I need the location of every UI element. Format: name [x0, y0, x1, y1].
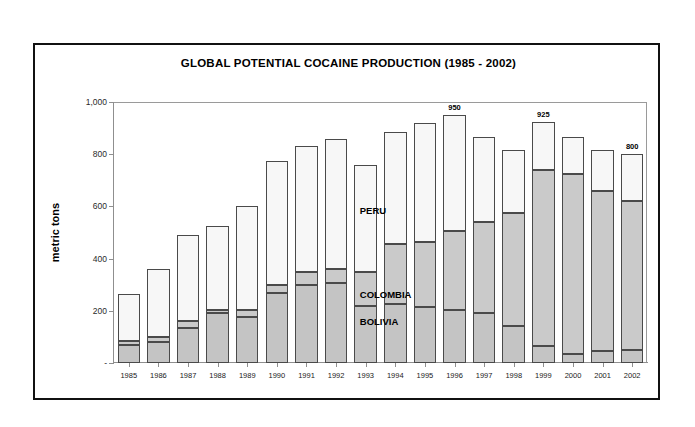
bar-segment-bolivia[interactable]	[177, 328, 200, 363]
bar-segment-peru[interactable]	[473, 137, 496, 222]
bar-segment-colombia[interactable]	[473, 222, 496, 313]
bar-group[interactable]	[206, 102, 229, 363]
bar-segment-peru[interactable]	[532, 122, 555, 170]
x-tick-label: 1994	[387, 371, 404, 380]
bar-segment-bolivia[interactable]	[354, 306, 377, 363]
plot-area: 1,000800600400200- 950925800 19851986198…	[114, 102, 647, 363]
figure-frame: GLOBAL POTENTIAL COCAINE PRODUCTION (198…	[33, 43, 660, 400]
bar-group[interactable]	[325, 102, 348, 363]
bar-group[interactable]	[562, 102, 585, 363]
y-tick-mark	[109, 363, 114, 364]
x-tick-mark	[455, 363, 456, 367]
chart-title: GLOBAL POTENTIAL COCAINE PRODUCTION (198…	[35, 57, 662, 69]
bar-value-label: 950	[448, 103, 461, 112]
x-tick-mark	[129, 363, 130, 367]
bar-group[interactable]	[295, 102, 318, 363]
y-tick-mark	[109, 206, 114, 207]
x-tick-label: 1986	[150, 371, 167, 380]
bar-segment-bolivia[interactable]	[266, 293, 289, 363]
bar-segment-bolivia[interactable]	[621, 350, 644, 363]
bar-segment-peru[interactable]	[621, 154, 644, 201]
bar-segment-bolivia[interactable]	[325, 283, 348, 363]
bar-segment-peru[interactable]	[354, 165, 377, 272]
bar-segment-bolivia[interactable]	[562, 354, 585, 363]
plot-right-border	[646, 102, 647, 363]
bar-segment-colombia[interactable]	[325, 269, 348, 283]
bar-segment-peru[interactable]	[591, 150, 614, 190]
bar-group[interactable]	[591, 102, 614, 363]
x-tick-mark	[514, 363, 515, 367]
x-tick-mark	[188, 363, 189, 367]
bar-segment-bolivia[interactable]	[591, 351, 614, 363]
bar-segment-colombia[interactable]	[295, 272, 318, 285]
bar-segment-colombia[interactable]	[236, 310, 259, 318]
bar-segment-colombia[interactable]	[118, 341, 141, 345]
y-tick-label: 800	[93, 149, 107, 159]
y-tick-mark	[109, 102, 114, 103]
bar-segment-colombia[interactable]	[266, 285, 289, 293]
bar-segment-bolivia[interactable]	[443, 310, 466, 364]
bar-segment-peru[interactable]	[414, 123, 437, 242]
bar-segment-peru[interactable]	[147, 269, 170, 337]
bar-segment-colombia[interactable]	[532, 170, 555, 346]
bar-segment-colombia[interactable]	[443, 231, 466, 309]
bar-group[interactable]	[266, 102, 289, 363]
bar-segment-peru[interactable]	[266, 161, 289, 285]
bar-segment-peru[interactable]	[295, 146, 318, 271]
x-tick-label: 1996	[446, 371, 463, 380]
bar-segment-peru[interactable]	[384, 132, 407, 244]
bar-segment-peru[interactable]	[118, 294, 141, 341]
series-label-bolivia: BOLIVIA	[360, 316, 399, 327]
bar-segment-colombia[interactable]	[621, 201, 644, 350]
bar-segment-bolivia[interactable]	[473, 313, 496, 363]
bar-segment-bolivia[interactable]	[236, 317, 259, 363]
x-tick-mark	[158, 363, 159, 367]
x-tick-label: 1988	[209, 371, 226, 380]
bar-segment-peru[interactable]	[562, 137, 585, 174]
bar-segment-colombia[interactable]	[591, 191, 614, 352]
bar-group[interactable]: 800	[621, 102, 644, 363]
x-tick-mark	[425, 363, 426, 367]
x-tick-label: 1995	[417, 371, 434, 380]
bar-segment-colombia[interactable]	[206, 310, 229, 314]
bar-segment-peru[interactable]	[177, 235, 200, 321]
y-tick-mark	[109, 259, 114, 260]
x-tick-mark	[484, 363, 485, 367]
bar-segment-colombia[interactable]	[177, 321, 200, 328]
bar-segment-colombia[interactable]	[147, 337, 170, 342]
x-tick-mark	[395, 363, 396, 367]
bar-group[interactable]	[473, 102, 496, 363]
bar-segment-colombia[interactable]	[562, 174, 585, 354]
bar-segment-peru[interactable]	[502, 150, 525, 213]
bar-group[interactable]	[118, 102, 141, 363]
x-tick-label: 1990	[269, 371, 286, 380]
bar-group[interactable]: 950	[443, 102, 466, 363]
x-tick-mark	[306, 363, 307, 367]
bar-segment-bolivia[interactable]	[502, 326, 525, 363]
x-tick-mark	[336, 363, 337, 367]
bar-segment-bolivia[interactable]	[147, 342, 170, 363]
bar-group[interactable]: 925	[532, 102, 555, 363]
x-tick-mark	[603, 363, 604, 367]
bar-group[interactable]	[502, 102, 525, 363]
bar-segment-bolivia[interactable]	[414, 307, 437, 363]
bar-group[interactable]	[177, 102, 200, 363]
bar-segment-bolivia[interactable]	[206, 313, 229, 363]
bar-segment-peru[interactable]	[443, 115, 466, 231]
x-tick-mark	[573, 363, 574, 367]
bar-segment-peru[interactable]	[325, 139, 348, 270]
bar-segment-colombia[interactable]	[414, 242, 437, 307]
bar-segment-bolivia[interactable]	[118, 345, 141, 363]
bar-segment-bolivia[interactable]	[532, 346, 555, 363]
bar-segment-peru[interactable]	[236, 206, 259, 309]
x-tick-label: 1989	[239, 371, 256, 380]
x-tick-label: 1992	[328, 371, 345, 380]
bar-segment-peru[interactable]	[206, 226, 229, 310]
bar-segment-colombia[interactable]	[502, 213, 525, 327]
bar-group[interactable]	[236, 102, 259, 363]
bar-value-label: 800	[626, 142, 639, 151]
bar-group[interactable]	[147, 102, 170, 363]
bar-group[interactable]	[414, 102, 437, 363]
bar-segment-bolivia[interactable]	[295, 285, 318, 363]
bar-segment-bolivia[interactable]	[384, 304, 407, 363]
